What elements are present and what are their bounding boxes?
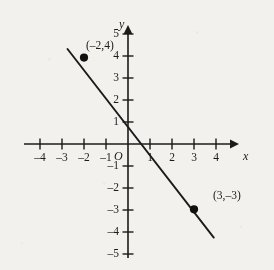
x-tick-label-3: 3 bbox=[191, 152, 197, 164]
x-tick-label--2: –2 bbox=[78, 152, 90, 164]
y-tick-label--4: –4 bbox=[108, 226, 120, 238]
graph-canvas bbox=[0, 0, 274, 270]
y-tick-label--2: –2 bbox=[108, 182, 120, 194]
x-axis-arrow-icon bbox=[230, 140, 239, 149]
x-tick-label-4: 4 bbox=[213, 152, 219, 164]
x-axis-label: x bbox=[243, 150, 248, 162]
y-axis-arrow-icon bbox=[124, 25, 133, 34]
point-label-b: (3,–3) bbox=[213, 190, 241, 202]
y-tick-label-1: 1 bbox=[113, 116, 119, 128]
y-tick-label-3: 3 bbox=[113, 72, 119, 84]
y-tick-label--5: –5 bbox=[108, 248, 120, 260]
y-tick-label-2: 2 bbox=[113, 94, 119, 106]
x-tick-label-1: 1 bbox=[147, 152, 153, 164]
data-point-b bbox=[190, 205, 198, 213]
x-tick-label--4: –4 bbox=[34, 152, 46, 164]
y-tick-label-5: 5 bbox=[113, 28, 119, 40]
y-tick-label--3: –3 bbox=[108, 204, 120, 216]
x-tick-label--3: –3 bbox=[56, 152, 68, 164]
data-point-a bbox=[80, 54, 88, 62]
coordinate-plane-figure: y x O –4 –3 –2 –1 1 2 3 4 5 4 3 2 1 –1 –… bbox=[0, 0, 274, 270]
y-axis-label: y bbox=[119, 18, 124, 30]
y-tick-label-4: 4 bbox=[113, 50, 119, 62]
x-tick-label-2: 2 bbox=[169, 152, 175, 164]
point-label-a: (–2,4) bbox=[86, 40, 114, 52]
y-tick-label--1: –1 bbox=[108, 160, 120, 172]
